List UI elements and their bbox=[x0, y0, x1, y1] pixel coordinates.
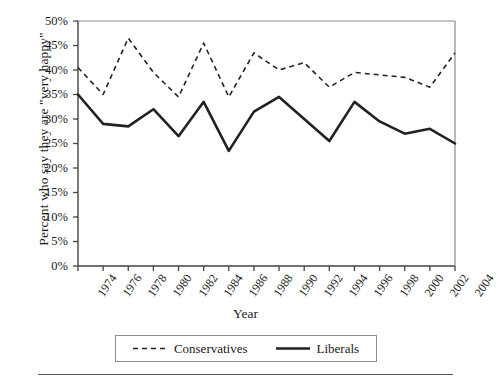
legend-swatch-dashed bbox=[133, 347, 167, 350]
legend-label-liberals: Liberals bbox=[317, 341, 360, 357]
x-axis-title: Year bbox=[0, 306, 491, 322]
series-line-conservatives bbox=[78, 38, 455, 97]
x-tick-marks bbox=[78, 266, 455, 271]
legend-swatch-solid bbox=[276, 347, 310, 350]
footer-rule bbox=[38, 374, 453, 375]
legend-entry-liberals: Liberals bbox=[276, 341, 360, 357]
legend-entry-conservatives: Conservatives bbox=[133, 341, 248, 357]
chart-legend: Conservatives Liberals bbox=[115, 335, 377, 362]
legend-label-conservatives: Conservatives bbox=[174, 341, 248, 357]
y-tick-marks bbox=[73, 21, 78, 266]
series-line-liberals bbox=[78, 95, 455, 151]
plot-area bbox=[0, 0, 491, 290]
